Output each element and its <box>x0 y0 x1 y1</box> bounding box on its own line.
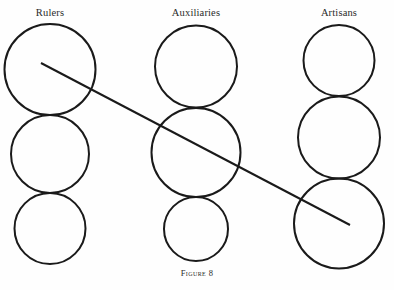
circle-rulers-1 <box>5 24 96 115</box>
circle-artisans-2 <box>298 97 380 179</box>
circle-auxiliaries-2 <box>152 108 241 197</box>
circle-rulers-2 <box>11 115 89 193</box>
column-label-rulers: Rulers <box>0 7 100 19</box>
figure-caption: Figure 8 <box>0 268 394 278</box>
circle-auxiliaries-1 <box>155 26 237 108</box>
circle-artisans-1 <box>304 25 375 96</box>
circle-artisans-3 <box>294 179 384 269</box>
circle-group-artisans <box>294 25 384 269</box>
figure-container: Rulers Auxiliaries Artisans Figure 8 <box>0 0 394 290</box>
figure-drawing-canvas <box>0 0 394 290</box>
circle-group-rulers <box>5 24 96 264</box>
circle-auxiliaries-3 <box>164 197 228 261</box>
column-label-auxiliaries: Auxiliaries <box>146 7 246 19</box>
column-label-artisans: Artisans <box>289 7 389 19</box>
circle-rulers-3 <box>15 193 86 264</box>
